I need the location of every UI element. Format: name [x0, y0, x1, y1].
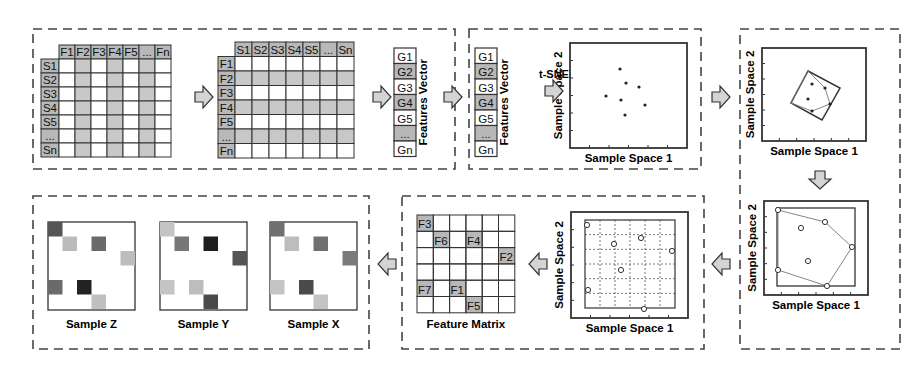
table-cell — [252, 86, 269, 101]
matrix-cell — [499, 297, 515, 313]
data-point — [798, 225, 803, 230]
column-header-label: S1 — [236, 44, 250, 56]
data-point — [810, 82, 813, 85]
scatter-plot: Sample Space 1Sample Space 2 — [552, 43, 687, 164]
table-cell — [91, 143, 107, 157]
y-axis-label: Sample Space 2 — [553, 221, 565, 309]
arrow-left-icon — [529, 253, 547, 275]
row-header-label: F2 — [220, 73, 233, 85]
table-cell — [320, 144, 337, 159]
table-cell — [123, 73, 139, 87]
panel1.table1-table: F1F2F3F4F5...FnS1S2S3S4S5...Sn — [41, 45, 171, 157]
data-point — [828, 102, 831, 105]
vector-cell-label: G4 — [478, 97, 494, 109]
data-point — [806, 97, 809, 100]
vector-cell-label: G2 — [478, 66, 493, 78]
pixel — [160, 222, 175, 237]
table-cell — [303, 129, 320, 144]
pixel — [204, 295, 219, 310]
table-cell — [59, 101, 75, 115]
table-cell — [235, 115, 252, 130]
data-point — [618, 267, 623, 272]
table-cell — [75, 101, 91, 115]
x-axis-label: Sample Space 1 — [586, 322, 674, 334]
table-cell — [155, 143, 171, 157]
table-cell — [155, 101, 171, 115]
table-cell — [252, 144, 269, 159]
data-point — [619, 98, 622, 101]
feature-matrix-label: Feature Matrix — [427, 318, 506, 330]
row-header-label: F3 — [220, 87, 233, 99]
matrix-cell — [450, 248, 466, 264]
arrow-right-icon — [195, 86, 213, 108]
sample-label: Sample Z — [66, 318, 117, 330]
row-header-label: F4 — [220, 102, 234, 114]
table-cell — [59, 73, 75, 87]
pixel — [160, 280, 175, 295]
table-cell — [139, 59, 155, 73]
table-cell — [320, 129, 337, 144]
column-header-label: Sn — [338, 44, 352, 56]
vector-cell-label: Gn — [397, 144, 412, 156]
column-header-label: ... — [324, 44, 334, 56]
data-point — [775, 267, 780, 272]
vector-cell-label: ... — [400, 128, 410, 140]
feature-matrix: F3F6F4F2F7F1F5Feature Matrix — [417, 215, 515, 330]
arrow-right-icon — [373, 86, 391, 108]
table-cell — [235, 86, 252, 101]
table-cell — [107, 59, 123, 73]
panel-tsne: G1G2G3G4G5...GnFeatures Vectort-SNESampl… — [475, 43, 687, 164]
table-cell — [269, 115, 286, 130]
matrix-cell — [433, 248, 449, 264]
column-header-label: S4 — [287, 44, 302, 56]
matrix-cell — [466, 215, 482, 231]
vector-cell-label: G3 — [397, 82, 412, 94]
matrix-cell — [482, 280, 498, 296]
panel-rotated-frame: Sample Space 1Sample Space 2 — [746, 201, 868, 311]
table-cell — [252, 100, 269, 115]
plot-frame — [570, 43, 687, 148]
matrix-cell — [482, 264, 498, 280]
data-point — [805, 258, 810, 263]
row-header-label: S2 — [43, 74, 57, 86]
table-cell — [139, 73, 155, 87]
table-cell — [75, 73, 91, 87]
panel-output-images: Sample ZSample YSample X — [48, 222, 357, 330]
panel-feature-tables: F1F2F3F4F5...FnS1S2S3S4S5...SnS1S2S3S4S5… — [41, 42, 429, 158]
table-cell — [123, 115, 139, 129]
table-cell — [235, 129, 252, 144]
table-cell — [91, 115, 107, 129]
table-cell — [107, 129, 123, 143]
table-cell — [320, 57, 337, 72]
table-cell — [269, 100, 286, 115]
sample-image: Sample X — [270, 222, 357, 330]
column-header-label: ... — [142, 46, 152, 58]
data-point — [611, 241, 616, 246]
table-cell — [252, 71, 269, 86]
data-point — [604, 94, 607, 97]
feature-cell-label: F4 — [467, 235, 481, 247]
table-cell — [337, 115, 354, 130]
table-cell — [320, 86, 337, 101]
feature-cell-label: F5 — [467, 300, 480, 312]
table-cell — [123, 87, 139, 101]
matrix-cell — [417, 248, 433, 264]
row-header-label: Fn — [220, 145, 233, 157]
arrow-right-icon — [712, 86, 730, 108]
table-cell — [286, 71, 303, 86]
sample-image: Sample Y — [160, 222, 247, 330]
matrix-cell — [482, 248, 498, 264]
data-point — [585, 287, 590, 292]
plot-frame — [762, 48, 866, 141]
table-cell — [337, 86, 354, 101]
table-cell — [91, 87, 107, 101]
table-cell — [286, 86, 303, 101]
table-cell — [59, 87, 75, 101]
matrix-cell — [499, 264, 515, 280]
table-cell — [155, 115, 171, 129]
data-point — [618, 67, 621, 70]
features-vector-label: Features Vector — [417, 59, 429, 146]
vector-cell-label: G3 — [478, 82, 493, 94]
matrix-cell — [499, 280, 515, 296]
data-point — [641, 306, 646, 311]
